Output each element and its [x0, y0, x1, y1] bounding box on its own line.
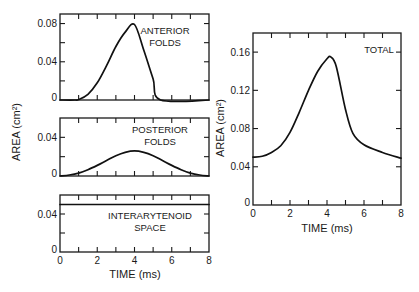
- right-x-axis-label: TIME (ms): [301, 222, 352, 234]
- panel-anterior-folds: 00.040.08ANTERIORFOLDS: [38, 14, 209, 103]
- panel-annotation: TOTAL: [364, 44, 394, 55]
- panel-annotation: FOLDS: [144, 136, 176, 147]
- figure: 00.040.08ANTERIORFOLDS 00.04POSTERIORFOL…: [0, 0, 419, 292]
- left-y-axis-label: AREA (cm²): [10, 103, 22, 161]
- x-tick-label: 0: [57, 255, 63, 266]
- y-tick-label: 0.08: [38, 18, 58, 29]
- right-y-axis-label: AREA (cm²): [214, 99, 226, 157]
- panel-annotation: ANTERIOR: [140, 25, 189, 36]
- panel-annotation: POSTERIOR: [132, 124, 188, 135]
- y-tick-label: 0: [51, 244, 57, 255]
- y-tick-label: 0: [51, 168, 57, 179]
- panel-annotation: SPACE: [134, 222, 166, 233]
- panel-annotation: INTERARYTENOID: [108, 210, 192, 221]
- panel-posterior-folds: 00.04POSTERIORFOLDS: [38, 118, 209, 179]
- y-tick-label: 0.04: [38, 56, 58, 67]
- panel-total: 0246800.040.080.120.16TOTAL: [231, 33, 405, 219]
- x-tick-label: 6: [169, 255, 175, 266]
- panel-interarytenoid-space: 0246800.04INTERARYTENOIDSPACE: [38, 195, 213, 266]
- y-tick-label: 0.04: [231, 161, 251, 172]
- x-tick-label: 0: [250, 208, 256, 219]
- x-tick-label: 8: [206, 255, 212, 266]
- panel-annotation: FOLDS: [149, 37, 181, 48]
- x-tick-label: 6: [361, 208, 367, 219]
- x-tick-label: 4: [324, 208, 330, 219]
- x-tick-label: 4: [132, 255, 138, 266]
- series-curve-total: [253, 56, 401, 158]
- x-tick-label: 2: [287, 208, 293, 219]
- y-tick-label: 0: [51, 92, 57, 103]
- y-tick-label: 0.04: [38, 132, 58, 143]
- y-tick-label: 0.16: [231, 47, 251, 58]
- x-tick-label: 8: [398, 208, 404, 219]
- left-x-axis-label: TIME (ms): [109, 268, 160, 280]
- y-tick-label: 0.12: [231, 85, 251, 96]
- y-tick-label: 0.04: [38, 209, 58, 220]
- x-tick-label: 2: [94, 255, 100, 266]
- y-tick-label: 0.08: [231, 123, 251, 134]
- y-tick-label: 0: [244, 197, 250, 208]
